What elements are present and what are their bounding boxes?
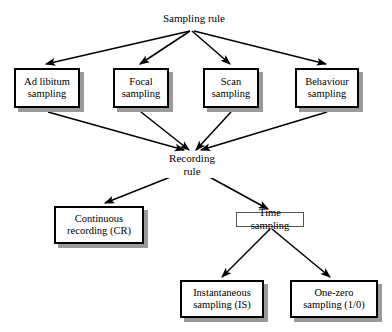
- edge-sampling-to-focal: [140, 31, 190, 64]
- edge-sampling-to-ad-libitum: [46, 31, 190, 64]
- node-instantaneous-sampling: Instantaneous sampling (IS): [180, 280, 264, 318]
- node-ad-libitum-sampling: Ad libitum sampling: [14, 68, 80, 108]
- edge-time-sampling-to-one-zero: [272, 229, 330, 277]
- edge-behaviour-to-recording: [201, 112, 327, 150]
- node-sampling-rule: Sampling rule: [148, 10, 240, 27]
- edge-sampling-to-scan: [192, 31, 230, 64]
- node-one-zero-sampling: One-zero sampling (1/0): [290, 280, 378, 318]
- node-time-sampling: Time sampling: [236, 212, 304, 227]
- edge-recording-to-continuous: [105, 174, 178, 203]
- node-recording-rule: Recording rule: [160, 152, 224, 178]
- edge-time-sampling-to-instantaneous: [222, 229, 270, 277]
- node-scan-sampling: Scan sampling: [203, 68, 259, 108]
- edge-scan-to-recording: [196, 112, 231, 150]
- sampling-rule-flowchart: Sampling rule Ad libitum sampling Focal …: [0, 0, 392, 332]
- node-behaviour-sampling: Behaviour sampling: [295, 68, 359, 108]
- edge-sampling-to-behaviour: [194, 31, 326, 64]
- node-continuous-recording: Continuous recording (CR): [54, 206, 144, 244]
- edge-ad-libitum-to-recording: [48, 112, 184, 150]
- edge-focal-to-recording: [141, 112, 189, 150]
- node-focal-sampling: Focal sampling: [113, 68, 169, 108]
- edge-recording-to-time-sampling: [204, 174, 268, 209]
